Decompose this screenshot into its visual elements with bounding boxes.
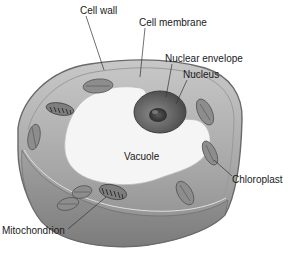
label-nuclear-envelope: Nuclear envelope bbox=[165, 53, 243, 65]
label-mitochondrion: Mitochondrion bbox=[2, 225, 65, 237]
plant-cell-diagram: Cell wall Cell membrane Nuclear envelope… bbox=[0, 0, 290, 262]
label-nucleus: Nucleus bbox=[183, 69, 219, 81]
label-vacuole: Vacuole bbox=[124, 151, 159, 163]
label-cell-wall: Cell wall bbox=[80, 5, 117, 17]
cell-illustration bbox=[0, 0, 290, 262]
label-chloroplast: Chloroplast bbox=[232, 174, 283, 186]
label-cell-membrane: Cell membrane bbox=[139, 17, 207, 29]
nucleus-shape bbox=[134, 91, 186, 133]
leader-cell-wall bbox=[86, 16, 104, 70]
